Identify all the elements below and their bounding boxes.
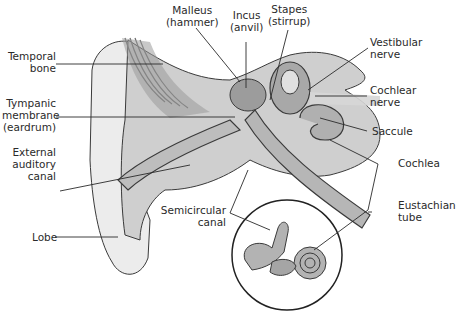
label-line: Lobe <box>32 231 57 243</box>
label-line: Vestibular <box>370 36 422 48</box>
label-line: (hammer) <box>166 16 219 28</box>
label-vestibular-nerve: Vestibular nerve <box>370 36 422 60</box>
label-line: Saccule <box>372 125 413 137</box>
label-line: tube <box>398 211 456 223</box>
inset-cochlea-shape <box>294 247 326 279</box>
label-line: (anvil) <box>230 21 263 33</box>
label-temporal-bone: Temporal bone <box>2 50 56 74</box>
label-lobe: Lobe <box>32 231 57 243</box>
label-line: membrane <box>2 109 56 121</box>
label-line: Temporal <box>2 50 56 62</box>
label-cochlea: Cochlea <box>398 157 440 169</box>
label-line: Eustachian <box>398 199 456 211</box>
label-line: nerve <box>370 96 416 108</box>
label-line: Cochlea <box>398 157 440 169</box>
label-cochlear-nerve: Cochlear nerve <box>370 84 416 108</box>
label-line: Malleus <box>166 4 219 16</box>
label-line: Stapes <box>268 3 310 15</box>
label-line: Incus <box>230 9 263 21</box>
label-line: canal <box>2 170 56 182</box>
label-line: (eardrum) <box>2 121 56 133</box>
label-eustachian-tube: Eustachian tube <box>398 199 456 223</box>
label-line: Cochlear <box>370 84 416 96</box>
label-malleus: Malleus (hammer) <box>166 4 219 28</box>
label-line: Tympanic <box>2 97 56 109</box>
label-line: auditory <box>2 158 56 170</box>
label-line: bone <box>2 62 56 74</box>
ossicles-shape <box>230 79 266 111</box>
label-tympanic-membrane: Tympanic membrane (eardrum) <box>2 97 56 133</box>
label-external-auditory-canal: External auditory canal <box>2 146 56 182</box>
label-line: (stirrup) <box>268 15 310 27</box>
label-incus: Incus (anvil) <box>230 9 263 33</box>
label-line: Semicircular <box>160 204 226 216</box>
label-line: nerve <box>370 48 422 60</box>
label-semicircular-canal: Semicircular canal <box>160 204 226 228</box>
label-stapes: Stapes (stirrup) <box>268 3 310 27</box>
label-line: External <box>2 146 56 158</box>
label-line: canal <box>160 216 226 228</box>
label-saccule: Saccule <box>372 125 413 137</box>
